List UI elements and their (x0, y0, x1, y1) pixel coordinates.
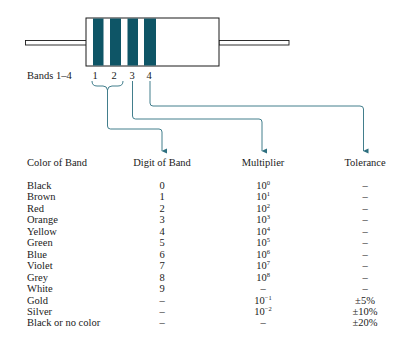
row-digit: 0 (159, 180, 164, 192)
row-digit: 5 (159, 237, 164, 249)
multiplier-exponent: 6 (267, 248, 270, 255)
row-digit: 6 (159, 249, 164, 261)
band-3 (128, 19, 139, 66)
row-digit: 2 (159, 203, 164, 215)
row-digit: 3 (159, 214, 164, 226)
multiplier-exponent: 1 (267, 190, 270, 197)
row-color-name: Black or no color (27, 317, 100, 329)
multiplier-base: 10 (256, 203, 267, 214)
multiplier-exponent: 0 (267, 179, 270, 186)
multiplier-connector (133, 81, 263, 151)
band-number-1: 1 (92, 70, 97, 82)
multiplier-exponent: −1 (265, 294, 272, 301)
band-number-3: 3 (129, 70, 134, 82)
row-tolerance: ±20% (352, 317, 377, 329)
header-tolerance: Tolerance (344, 157, 385, 169)
row-digit: 4 (159, 226, 164, 238)
row-tolerance: – (362, 249, 367, 261)
row-multiplier: – (260, 317, 265, 329)
multiplier-exponent: 2 (267, 202, 270, 209)
row-color-name: Grey (27, 272, 48, 284)
row-tolerance: ±5% (355, 295, 375, 307)
multiplier-base: 10 (254, 295, 265, 306)
row-color-name: Brown (27, 191, 56, 203)
row-color-name: Red (27, 203, 44, 215)
resistor-diagram (0, 0, 399, 349)
multiplier-exponent: 3 (267, 213, 270, 220)
header-multiplier: Multiplier (242, 157, 285, 169)
multiplier-exponent: 8 (267, 271, 270, 278)
row-color-name: Green (27, 237, 53, 249)
row-tolerance: ±10% (352, 306, 377, 318)
header-digit-of-band: Digit of Band (133, 157, 191, 169)
row-digit: – (159, 317, 164, 329)
row-tolerance: – (362, 260, 367, 272)
multiplier-base: 10 (256, 214, 267, 225)
bands-1-2-brace (92, 81, 123, 90)
tolerance-connector (150, 81, 364, 151)
row-color-name: White (27, 283, 53, 295)
band-2 (110, 19, 121, 66)
left-lead (26, 41, 87, 46)
multiplier-base: 10 (256, 180, 267, 191)
row-color-name: Violet (27, 260, 53, 272)
row-digit: 8 (159, 272, 164, 284)
band-number-4: 4 (146, 70, 151, 82)
multiplier-base: – (260, 283, 265, 294)
row-tolerance: – (362, 191, 367, 203)
header-color-of-band: Color of Band (27, 157, 87, 169)
multiplier-exponent: 7 (267, 259, 270, 266)
row-multiplier: 108 (256, 272, 270, 284)
band-1 (93, 19, 104, 66)
row-tolerance: – (362, 214, 367, 226)
row-color-name: Silver (27, 306, 52, 318)
row-color-name: Gold (27, 295, 48, 307)
multiplier-base: 10 (256, 260, 267, 271)
row-tolerance: – (362, 237, 367, 249)
row-tolerance: – (362, 283, 367, 295)
multiplier-base: 10 (256, 272, 267, 283)
row-color-name: Black (27, 180, 52, 192)
row-color-name: Yellow (27, 226, 57, 238)
digit-connector (108, 90, 163, 151)
multiplier-base: 10 (256, 191, 267, 202)
multiplier-base: – (260, 317, 265, 328)
row-tolerance: – (362, 272, 367, 284)
multiplier-base: 10 (256, 237, 267, 248)
bands-label: Bands 1–4 (27, 70, 72, 82)
multiplier-base: 10 (256, 226, 267, 237)
row-tolerance: – (362, 180, 367, 192)
multiplier-exponent: 4 (267, 225, 270, 232)
row-digit: 9 (159, 283, 164, 295)
multiplier-exponent: −2 (265, 305, 272, 312)
row-digit: 7 (159, 260, 164, 272)
multiplier-exponent: 5 (267, 236, 270, 243)
row-color-name: Blue (27, 249, 47, 261)
row-multiplier: 10−2 (254, 306, 271, 318)
band-4 (144, 19, 156, 66)
right-lead (219, 41, 289, 46)
row-tolerance: – (362, 226, 367, 238)
row-tolerance: – (362, 203, 367, 215)
row-digit: 1 (159, 191, 164, 203)
multiplier-base: 10 (256, 249, 267, 260)
row-digit: – (159, 306, 164, 318)
row-digit: – (159, 295, 164, 307)
multiplier-base: 10 (254, 306, 265, 317)
band-number-2: 2 (111, 70, 116, 82)
row-color-name: Orange (27, 214, 58, 226)
